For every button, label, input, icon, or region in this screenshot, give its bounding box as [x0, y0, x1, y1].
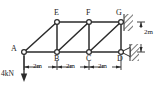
truss-members — [24, 22, 121, 52]
joint-G — [119, 20, 124, 25]
node-label-A: A — [11, 45, 17, 53]
dimension-label-height: 2m — [144, 29, 153, 36]
support-wall-d — [130, 44, 139, 61]
member-A-E — [24, 22, 57, 52]
joint-E — [55, 20, 60, 25]
dimension-label-AB: 2m — [33, 63, 42, 70]
node-label-G: G — [116, 9, 122, 17]
truss-drawing — [0, 0, 161, 86]
member-C-G — [89, 22, 121, 52]
truss-diagram-figure: A B C D E F G 2m 2m 2m 2m 4kN — [0, 0, 161, 86]
node-label-C: C — [86, 55, 91, 63]
joint-F — [87, 20, 92, 25]
node-label-F: F — [86, 9, 90, 17]
dimension-label-CD: 2m — [98, 63, 107, 70]
support-wall-g — [124, 14, 133, 31]
member-B-F — [57, 22, 89, 52]
dimension-label-BC: 2m — [66, 63, 75, 70]
node-label-D: D — [117, 55, 123, 63]
node-label-E: E — [54, 9, 59, 17]
node-label-B: B — [54, 55, 59, 63]
load-label-4kn: 4kN — [1, 70, 14, 78]
joint-A — [22, 50, 27, 55]
